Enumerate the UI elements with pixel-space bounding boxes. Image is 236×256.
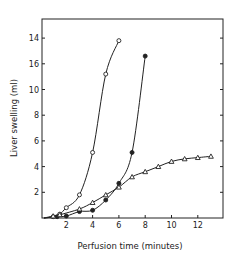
triangle-marker (209, 154, 214, 158)
y-tick-label: 4 (34, 163, 39, 172)
y-tick-label: 6 (34, 137, 39, 146)
filled-circle-marker (91, 208, 95, 212)
y-tick-label: 14 (29, 34, 39, 43)
triangle-marker (90, 200, 95, 204)
x-tick-label: 10 (166, 221, 176, 230)
filled-circle-marker (104, 198, 108, 202)
open-circle-marker (77, 193, 81, 197)
y-tick-label: 8 (34, 111, 39, 120)
filled-circle-marker (130, 150, 134, 154)
y-tick-label: 10 (29, 86, 39, 95)
data-series (44, 39, 213, 219)
x-axis-label: Perfusion time (minutes) (78, 241, 183, 251)
triangle-marker (130, 174, 135, 178)
series-open-circles (44, 39, 121, 219)
x-tick-label: 4 (90, 221, 95, 230)
triangle-marker (156, 164, 161, 168)
liver-swelling-chart: 2468101614 24681012 Perfusion time (minu… (0, 0, 236, 256)
triangle-marker (51, 214, 56, 218)
open-circle-marker (117, 39, 121, 43)
x-tick-label: 6 (116, 221, 121, 230)
x-tick-label: 8 (143, 221, 148, 230)
triangle-marker (103, 192, 108, 196)
y-tick-label: 2 (34, 188, 39, 197)
x-tick-label: 2 (64, 221, 69, 230)
triangle-marker (77, 207, 82, 211)
filled-circle-marker (64, 214, 68, 218)
series-open-triangles (44, 154, 213, 218)
x-axis-ticks: 24681012 (64, 215, 203, 230)
filled-circle-marker (143, 54, 147, 58)
open-circle-marker (91, 150, 95, 154)
triangle-marker (143, 169, 148, 173)
y-tick-label: 16 (29, 60, 39, 69)
plot-frame (42, 19, 223, 218)
triangle-marker (169, 159, 174, 163)
open-circle-marker (64, 206, 68, 210)
open-circle-marker (104, 72, 108, 76)
triangle-marker (195, 155, 200, 159)
triangle-marker (182, 156, 187, 160)
y-axis-label: Liver swelling (ml) (9, 79, 19, 157)
x-tick-label: 12 (193, 221, 203, 230)
